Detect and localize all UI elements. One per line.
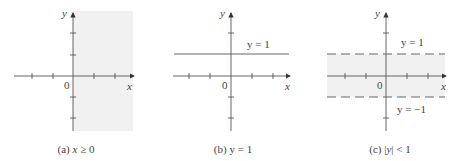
origin-label: 0 — [377, 79, 383, 91]
caption-a: (a) x ≥ 0 — [58, 143, 95, 155]
line-label-y-equals-neg1: y = −1 — [397, 103, 426, 115]
x-axis-label: x — [284, 80, 290, 92]
y-axis-label: y — [374, 7, 380, 19]
origin-label: 0 — [64, 79, 70, 91]
line-label-y-equals-1: y = 1 — [247, 38, 270, 50]
figure-canvas: y x 0 y = 1 y x 0 y = 1 y = −1 y — [0, 0, 465, 161]
panel-b: y = 1 y x 0 — [173, 7, 290, 131]
caption-prefix: (a) — [58, 143, 73, 155]
caption-b: (b) y = 1 — [214, 143, 252, 155]
shaded-region-x-nonneg — [73, 11, 133, 131]
caption-relation: | < 1 — [391, 143, 410, 155]
x-axis-label: x — [126, 80, 132, 92]
y-axis-label: y — [219, 7, 225, 19]
panel-c: y = 1 y = −1 y x 0 — [327, 7, 446, 131]
x-axis-label: x — [440, 80, 446, 92]
caption-relation: ≥ 0 — [77, 143, 94, 155]
caption-relation: y = 1 — [229, 143, 252, 155]
caption-prefix: (b) — [214, 143, 230, 155]
line-label-y-equals-1: y = 1 — [401, 36, 424, 48]
caption-c: (c) |y| < 1 — [369, 143, 410, 155]
origin-label: 0 — [222, 79, 228, 91]
y-axis-label: y — [61, 7, 67, 19]
panel-a: y x 0 — [14, 7, 134, 131]
caption-prefix: (c) | — [369, 143, 386, 155]
